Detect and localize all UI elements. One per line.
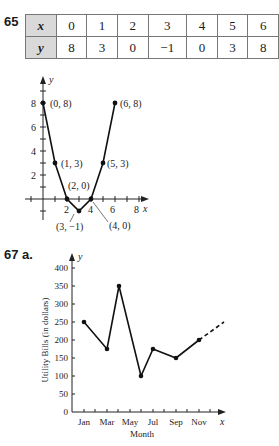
graph-67a: y x 050 100150 200250 300350 400 Jan Mar… <box>0 0 279 446</box>
svg-text:150: 150 <box>55 353 69 363</box>
svg-text:400: 400 <box>55 263 69 273</box>
svg-text:300: 300 <box>55 299 69 309</box>
svg-text:y: y <box>77 251 83 262</box>
month-may: May <box>122 417 139 427</box>
svg-text:350: 350 <box>55 281 69 291</box>
month-sep: Sep <box>169 417 183 427</box>
month-jul: Jul <box>148 417 159 427</box>
svg-text:250: 250 <box>55 317 69 327</box>
y-axis-label: Utility Bills (in dollars) <box>40 298 50 383</box>
month-jan: Jan <box>78 417 90 427</box>
svg-text:0: 0 <box>64 407 69 417</box>
svg-text:x: x <box>219 416 225 427</box>
x-axis-label: Month <box>130 429 155 439</box>
svg-text:200: 200 <box>55 335 69 345</box>
svg-text:100: 100 <box>55 371 69 381</box>
svg-text:50: 50 <box>59 389 69 399</box>
month-nov: Nov <box>191 417 207 427</box>
month-mar: Mar <box>100 417 115 427</box>
